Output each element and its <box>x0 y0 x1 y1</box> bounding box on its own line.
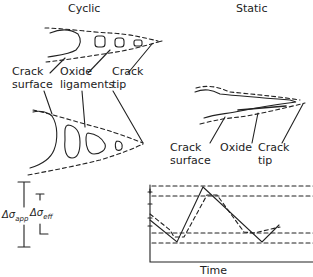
cyclic-crack-large <box>28 110 143 175</box>
static-crack <box>195 86 305 143</box>
x-axis-label-time: Time <box>200 265 227 277</box>
stress-time-plot <box>18 182 313 262</box>
delta-sigma-eff-label: Δσeff <box>30 207 53 221</box>
diagram-canvas <box>0 0 313 277</box>
static-title: Static <box>236 3 267 15</box>
cyclic-title: Cyclic <box>68 3 100 15</box>
delta-sigma-app-label: Δσapp <box>2 209 28 223</box>
